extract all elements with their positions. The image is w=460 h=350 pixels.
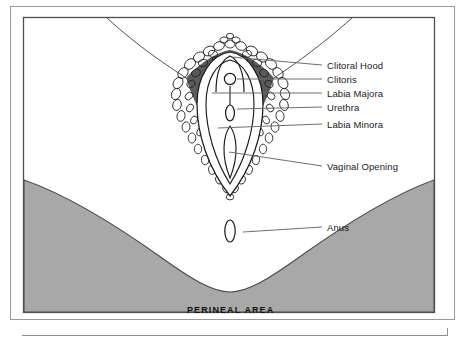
perineal-area-caption: PERINEAL AREA <box>187 305 274 315</box>
label-clitoral-hood: Clitoral Hood <box>327 61 383 71</box>
anus-marker <box>225 220 235 242</box>
anatomy-illustration <box>0 0 460 350</box>
figure-page: Clitoral Hood Clitoris Labia Majora Uret… <box>0 0 460 350</box>
label-anus: Anus <box>327 223 349 233</box>
clitoris-marker <box>224 73 235 84</box>
label-clitoris: Clitoris <box>327 75 357 85</box>
urethra-marker <box>226 105 235 121</box>
label-labia-minora: Labia Minora <box>327 120 383 130</box>
label-labia-majora: Labia Majora <box>327 89 383 99</box>
label-urethra: Urethra <box>327 103 359 113</box>
label-vaginal-opening: Vaginal Opening <box>327 162 398 172</box>
